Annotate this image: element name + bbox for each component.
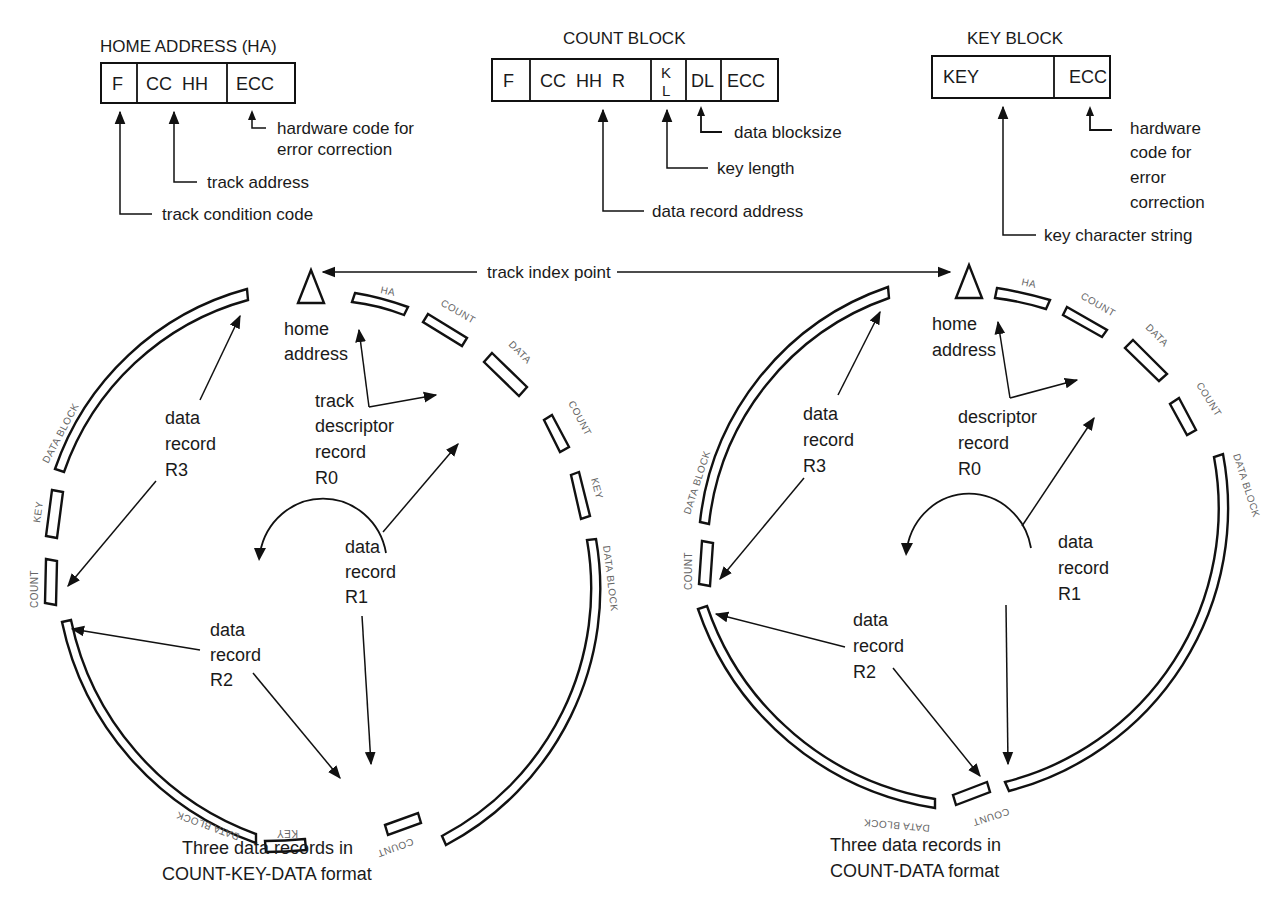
segment-count-r1 — [544, 415, 569, 452]
svg-text:data: data — [1058, 532, 1094, 552]
cb-field-k: K — [661, 64, 671, 81]
kb-field-key: KEY — [943, 67, 979, 87]
ha-ecc-annotation-2: error correction — [277, 140, 392, 159]
segment-count-r2 — [953, 782, 990, 805]
svg-text:KEY: KEY — [589, 477, 605, 501]
ha-field-cchh: CC HH — [146, 74, 208, 94]
arrow-up-icon — [248, 110, 256, 120]
home-address-title: HOME ADDRESS (HA) — [100, 37, 277, 56]
svg-text:data: data — [853, 610, 889, 630]
svg-text:DATA BLOCK: DATA BLOCK — [1231, 452, 1262, 518]
segment-data-block-r1 — [442, 539, 600, 845]
rotation-direction-icon — [907, 494, 1031, 548]
segment-count-r2 — [385, 813, 421, 835]
segment-ha — [352, 293, 408, 315]
svg-text:record: record — [853, 636, 904, 656]
ha-cchh-annotation: track address — [207, 173, 309, 192]
svg-text:COUNT: COUNT — [439, 297, 477, 326]
svg-text:HA: HA — [1021, 276, 1038, 290]
svg-text:DATA BLOCK: DATA BLOCK — [601, 545, 620, 612]
segment-count-r3 — [699, 541, 713, 586]
svg-text:COUNT: COUNT — [29, 570, 40, 608]
svg-text:COUNT: COUNT — [376, 836, 416, 859]
svg-text:DATA: DATA — [507, 339, 534, 366]
right-track-caption-1: Three data records in — [830, 835, 1001, 855]
cb-kl-annotation: key length — [717, 159, 795, 178]
index-marker-icon — [298, 270, 324, 303]
svg-text:descriptor: descriptor — [958, 407, 1037, 427]
svg-text:COUNT: COUNT — [1194, 380, 1223, 418]
svg-text:R3: R3 — [165, 460, 188, 480]
svg-text:descriptor: descriptor — [315, 416, 394, 436]
svg-text:record: record — [315, 442, 366, 462]
svg-text:home: home — [932, 314, 977, 334]
index-marker-icon — [956, 265, 982, 298]
cb-field-f: F — [503, 71, 514, 91]
svg-text:R1: R1 — [345, 587, 368, 607]
svg-text:track: track — [315, 391, 355, 411]
kb-ecc-annotation-1: hardware — [1130, 119, 1201, 138]
ha-ecc-annotation-1: hardware code for — [277, 119, 414, 138]
callout-home-address: home address — [932, 314, 996, 360]
left-track-ckd: HA COUNT DATA COUNT KEY DATA BLOCK COUNT… — [29, 270, 620, 884]
svg-text:R2: R2 — [853, 662, 876, 682]
right-track-cd: HA COUNT DATA COUNT DATA BLOCK COUNT DAT… — [681, 265, 1262, 881]
cb-field-l: L — [662, 82, 670, 99]
svg-text:record: record — [1058, 558, 1109, 578]
count-block-format: COUNT BLOCK F CC HH R K L DL ECC data bl… — [492, 29, 842, 221]
key-block-title: KEY BLOCK — [967, 29, 1064, 48]
svg-text:COUNT: COUNT — [971, 806, 1011, 828]
left-track-caption-1: Three data records in — [182, 838, 353, 858]
segment-data-block-r1 — [1005, 454, 1228, 791]
segment-count-r3 — [45, 559, 57, 605]
svg-text:R3: R3 — [803, 456, 826, 476]
count-block-title: COUNT BLOCK — [563, 29, 686, 48]
svg-text:data: data — [210, 620, 246, 640]
svg-text:COUNT: COUNT — [683, 552, 694, 590]
svg-text:COUNT: COUNT — [1079, 290, 1117, 319]
callout-r1: data record R1 — [345, 444, 458, 764]
svg-text:R1: R1 — [1058, 584, 1081, 604]
segment-key-r1 — [571, 472, 590, 519]
svg-text:data: data — [165, 408, 201, 428]
kb-key-annotation: key character string — [1044, 226, 1192, 245]
svg-text:address: address — [932, 340, 996, 360]
disk-track-format-diagram: HOME ADDRESS (HA) F CC HH ECC hardware c… — [0, 0, 1288, 920]
callout-r3: data record R3 — [68, 316, 240, 586]
key-block-format: KEY BLOCK KEY ECC hardware code for erro… — [932, 29, 1205, 245]
svg-text:R0: R0 — [958, 459, 981, 479]
svg-text:record: record — [803, 430, 854, 450]
kb-ecc-annotation-4: correction — [1130, 193, 1205, 212]
left-track-caption-2: COUNT-KEY-DATA format — [162, 864, 372, 884]
kb-ecc-annotation-2: code for — [1130, 143, 1192, 162]
svg-text:address: address — [284, 344, 348, 364]
cb-field-dl: DL — [691, 71, 714, 91]
svg-text:HA: HA — [380, 284, 397, 298]
callout-r1: data record R1 — [1006, 418, 1109, 764]
svg-text:DATA: DATA — [1144, 322, 1171, 349]
svg-text:R2: R2 — [210, 670, 233, 690]
svg-text:KEY: KEY — [31, 500, 45, 523]
svg-text:record: record — [210, 645, 261, 665]
svg-text:data: data — [803, 404, 839, 424]
segment-key-r3 — [46, 490, 63, 538]
svg-text:record: record — [165, 434, 216, 454]
callout-r3: data record R3 — [720, 312, 880, 579]
kb-ecc-annotation-3: error — [1130, 168, 1166, 187]
svg-text:home: home — [284, 319, 329, 339]
track-index-point: track index point — [323, 263, 950, 282]
ha-field-f: F — [112, 74, 123, 94]
ha-field-ecc: ECC — [236, 74, 274, 94]
svg-text:record: record — [958, 433, 1009, 453]
svg-text:data: data — [345, 537, 381, 557]
cb-field-ecc: ECC — [727, 71, 765, 91]
callout-r2: data record R2 — [72, 620, 340, 778]
cb-cchhr-annotation: data record address — [652, 202, 803, 221]
svg-text:R0: R0 — [315, 468, 338, 488]
right-track-caption-2: COUNT-DATA format — [830, 861, 999, 881]
segment-count-r1 — [1170, 398, 1196, 435]
kb-field-ecc: ECC — [1069, 67, 1107, 87]
home-address-format: HOME ADDRESS (HA) F CC HH ECC hardware c… — [100, 37, 414, 224]
svg-text:COUNT: COUNT — [566, 399, 594, 438]
ha-f-annotation: track condition code — [162, 205, 313, 224]
